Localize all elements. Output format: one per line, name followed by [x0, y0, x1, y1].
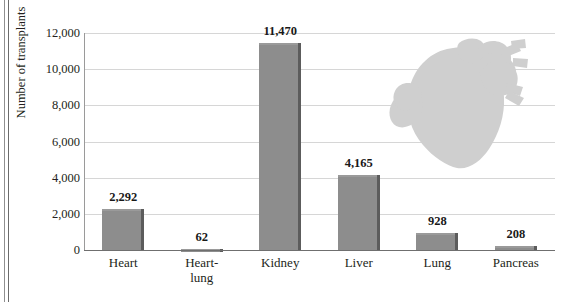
x-axis-category-label: Liver [345, 256, 373, 271]
y-axis-tick-label: 4,000 [2, 170, 80, 185]
x-axis-category-label: Lung [424, 256, 451, 271]
x-axis-line [84, 250, 555, 251]
gridline [84, 69, 555, 70]
x-axis-category-label: Heart [109, 256, 138, 271]
gridline [84, 105, 555, 106]
bar [259, 43, 301, 250]
bar-value-label: 2,292 [109, 190, 137, 205]
bar-top-highlight [495, 246, 534, 248]
y-axis-line [84, 33, 85, 251]
plot-area [84, 33, 555, 250]
bar-top-highlight [338, 175, 377, 177]
y-axis-tick-label: 12,000 [2, 26, 80, 41]
bar-value-label: 928 [428, 214, 447, 229]
y-axis-tick-label: 6,000 [2, 134, 80, 149]
bar-value-label: 208 [506, 227, 525, 242]
y-axis-tick-label: 10,000 [2, 62, 80, 77]
bar [102, 209, 144, 250]
x-axis-category-label: Kidney [261, 256, 299, 271]
gridline [84, 33, 555, 34]
bar-top-highlight [259, 43, 298, 45]
y-axis-tick-label: 2,000 [2, 206, 80, 221]
bar-value-label: 4,165 [345, 156, 373, 171]
bar-top-highlight [416, 233, 455, 235]
bar-top-highlight [102, 209, 141, 211]
y-axis-tick-labels: 02,0004,0006,0008,00010,00012,000 [0, 0, 80, 302]
gridline [84, 214, 555, 215]
x-axis-category-label: Heart- lung [185, 256, 218, 285]
x-axis-category-label: Pancreas [493, 256, 539, 271]
bar [416, 233, 458, 250]
bar-value-label: 62 [196, 230, 209, 245]
y-axis-tick-label: 0 [2, 243, 80, 258]
y-axis-tick-label: 8,000 [2, 98, 80, 113]
bar [338, 175, 380, 250]
bar-chart-figure: Number of transplants 02,0004,0006,0008,… [0, 0, 571, 302]
gridline [84, 142, 555, 143]
bar-value-label: 11,470 [263, 24, 297, 39]
gridline [84, 178, 555, 179]
